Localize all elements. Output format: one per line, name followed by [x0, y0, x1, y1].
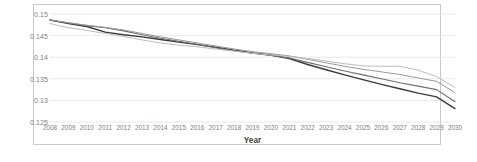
x-axis-tick: 2008 — [43, 124, 57, 131]
x-axis-tick: 2025 — [356, 124, 370, 131]
y-axis-tick: 0.13 — [34, 97, 48, 104]
y-axis-tick: 0.135 — [30, 75, 48, 82]
plot-svg — [50, 14, 455, 122]
x-axis-tick: 2011 — [98, 124, 112, 131]
x-axis-tick: 2019 — [245, 124, 259, 131]
x-axis-tick-labels: 2008200920102011201220132014201520162017… — [50, 124, 455, 135]
x-axis-tick: 2015 — [172, 124, 186, 131]
y-axis-tick-labels: 0.150.1450.140.1350.130.125 — [0, 14, 48, 122]
x-axis-tick: 2021 — [282, 124, 296, 131]
x-axis-tick: 2023 — [319, 124, 333, 131]
gridlines — [50, 14, 455, 122]
x-axis-tick: 2010 — [80, 124, 94, 131]
y-axis-tick: 0.14 — [34, 54, 48, 61]
x-axis-title: Year — [50, 136, 455, 145]
x-axis-tick: 2027 — [393, 124, 407, 131]
x-axis-tick: 2013 — [135, 124, 149, 131]
x-axis-tick: 2029 — [429, 124, 443, 131]
y-axis-tick: 0.145 — [30, 32, 48, 39]
series-lines — [50, 20, 455, 109]
x-axis-tick: 2018 — [227, 124, 241, 131]
x-axis-tick: 2028 — [411, 124, 425, 131]
plot-area — [50, 14, 455, 122]
x-axis-tick: 2014 — [153, 124, 167, 131]
x-axis-tick: 2016 — [190, 124, 204, 131]
y-axis-tick: 0.15 — [34, 11, 48, 18]
x-axis-tick: 2012 — [117, 124, 131, 131]
x-axis-tick: 2020 — [264, 124, 278, 131]
line-chart: 0.150.1450.140.1350.130.125 200820092010… — [0, 0, 477, 162]
x-axis-tick: 2026 — [374, 124, 388, 131]
x-axis-tick: 2022 — [301, 124, 315, 131]
x-axis-tick: 2030 — [448, 124, 462, 131]
x-axis-tick: 2017 — [209, 124, 223, 131]
x-axis-tick: 2024 — [337, 124, 351, 131]
series-line — [50, 20, 455, 109]
x-axis-tick: 2009 — [61, 124, 75, 131]
